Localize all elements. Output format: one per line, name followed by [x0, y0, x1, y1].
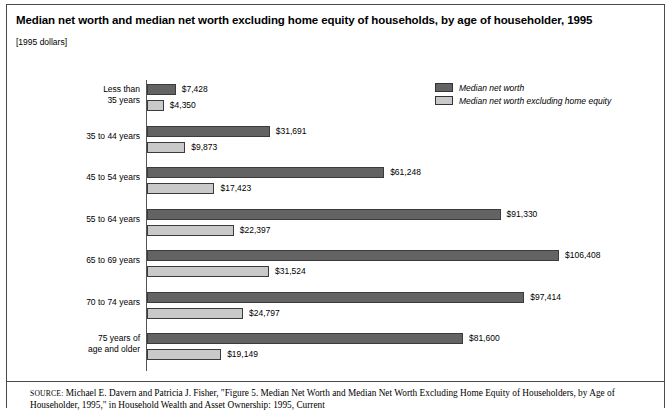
- bar[interactable]: [147, 292, 524, 303]
- bar[interactable]: [147, 142, 185, 153]
- category-label-line: 35 to 44 years: [16, 131, 140, 142]
- category-label-line: 65 to 69 years: [16, 255, 140, 266]
- category-label-line: 45 to 54 years: [16, 172, 140, 183]
- category-label: Less than35 years: [16, 84, 140, 105]
- bar[interactable]: [147, 126, 270, 137]
- category-label: 70 to 74 years: [16, 297, 140, 308]
- bar-value-label: $31,691: [276, 126, 307, 137]
- bar-value-label: $31,524: [275, 266, 306, 277]
- source-label: SOURCE:: [30, 389, 63, 398]
- category-label: 65 to 69 years: [16, 255, 140, 266]
- bar[interactable]: [147, 225, 234, 236]
- category-label: 35 to 44 years: [16, 131, 140, 142]
- bar[interactable]: [147, 100, 164, 111]
- bar[interactable]: [147, 308, 243, 319]
- category-label: 45 to 54 years: [16, 172, 140, 183]
- bar-value-label: $22,397: [240, 225, 271, 236]
- category-label-line: age and older: [16, 344, 140, 355]
- bar-value-label: $17,423: [220, 183, 251, 194]
- category-label-line: 55 to 64 years: [16, 214, 140, 225]
- category-label-line: 75 years of: [16, 333, 140, 344]
- bar[interactable]: [147, 266, 269, 277]
- bar-value-label: $91,330: [507, 209, 538, 220]
- category-label-line: 35 years: [16, 95, 140, 106]
- bar-value-label: $4,350: [170, 100, 196, 111]
- bar[interactable]: [147, 349, 221, 360]
- source-divider: [7, 381, 664, 382]
- source-text: Michael E. Davern and Patricia J. Fisher…: [30, 388, 615, 410]
- bar-value-label: $7,428: [182, 84, 208, 95]
- category-label-line: 70 to 74 years: [16, 297, 140, 308]
- bar[interactable]: [147, 250, 559, 261]
- figure-page: Median net worth and median net worth ex…: [0, 0, 671, 412]
- page-title: Median net worth and median net worth ex…: [16, 14, 636, 27]
- bar[interactable]: [147, 167, 384, 178]
- bar[interactable]: [147, 183, 214, 194]
- bar-value-label: $97,414: [530, 292, 561, 303]
- bar-value-label: $106,408: [565, 250, 600, 261]
- bar[interactable]: [147, 333, 463, 344]
- bar-value-label: $19,149: [227, 349, 258, 360]
- category-label: 75 years ofage and older: [16, 333, 140, 354]
- bar-value-label: $61,248: [390, 167, 421, 178]
- bar[interactable]: [147, 209, 501, 220]
- bar-value-label: $9,873: [191, 142, 217, 153]
- bar-value-label: $81,600: [469, 333, 500, 344]
- category-label: 55 to 64 years: [16, 214, 140, 225]
- bar-value-label: $24,797: [249, 308, 280, 319]
- category-label-line: Less than: [16, 84, 140, 95]
- units-note: [1995 dollars]: [16, 37, 67, 47]
- bar-chart-plot: Less than35 years$7,428$4,35035 to 44 ye…: [16, 78, 646, 373]
- source-note: SOURCE: Michael E. Davern and Patricia J…: [30, 388, 655, 411]
- bar[interactable]: [147, 84, 176, 95]
